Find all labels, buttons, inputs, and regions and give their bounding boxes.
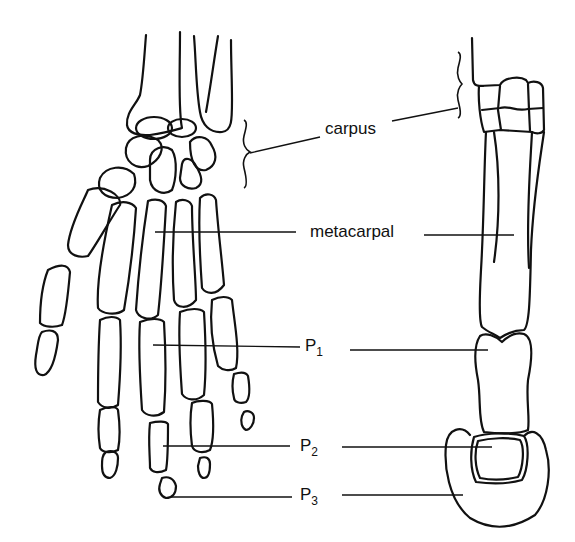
carpal-hamate <box>180 159 201 189</box>
metacarpal-little <box>199 194 224 293</box>
distal-phalanx-middle <box>159 477 176 498</box>
p1-leader-left <box>153 345 300 347</box>
proximal-phalanx-middle <box>139 319 165 416</box>
p3-label-main: P <box>300 485 311 504</box>
distal-phalanx-ring <box>198 457 210 478</box>
horse-carpus-brace <box>457 52 462 118</box>
p2-label: P2 <box>300 437 318 458</box>
diagram-drawing <box>0 0 575 542</box>
hand-carpus-brace <box>243 120 250 188</box>
p2-label-subscript: 2 <box>311 445 318 459</box>
horse-p3-hoof <box>446 429 549 526</box>
middle-phalanx-ring <box>191 401 214 452</box>
human-hand-skeleton <box>35 32 254 498</box>
p1-label-main: P <box>305 336 316 355</box>
metacarpal-ring <box>173 200 196 307</box>
carpal-trapezoid <box>99 168 135 198</box>
carpus-leader-right <box>392 108 458 121</box>
thumb-distal-phalanx <box>35 331 58 376</box>
metacarpal-label: metacarpal <box>310 223 394 240</box>
proximal-phalanx-index <box>98 317 121 408</box>
ulna-bone <box>194 36 232 132</box>
carpal-triquetrum <box>190 137 215 170</box>
carpal-trapezium <box>126 136 162 167</box>
proximal-phalanx-ring <box>179 309 205 399</box>
horse-carpal-divider-2 <box>528 84 530 131</box>
ulna-inner-line <box>206 36 218 112</box>
middle-phalanx-little <box>233 373 250 403</box>
horse-splint-left <box>494 132 499 262</box>
distal-phalanx-index <box>102 451 118 478</box>
horse-p2-inner <box>476 438 523 479</box>
p1-label-subscript: 1 <box>316 345 323 359</box>
p3-label: P3 <box>300 486 318 507</box>
p3-label-subscript: 3 <box>311 494 318 508</box>
middle-phalanx-middle <box>149 422 168 473</box>
proximal-phalanx-little <box>211 297 237 370</box>
p2-label-main: P <box>300 436 311 455</box>
bone-comparison-diagram: carpus metacarpal P1 P2 P3 <box>0 0 575 542</box>
distal-phalanx-little <box>241 411 254 430</box>
horse-carpal-row-divider <box>482 107 543 110</box>
carpus-label: carpus <box>325 120 376 137</box>
horse-carpal-block <box>479 78 544 134</box>
carpus-leader-left <box>250 137 320 153</box>
metacarpal-index <box>98 202 136 313</box>
horse-radius-line <box>472 38 483 86</box>
metacarpal-middle <box>136 200 166 319</box>
middle-phalanx-index <box>99 407 120 452</box>
thumb-proximal-phalanx <box>40 266 70 327</box>
horse-p1-bone <box>475 333 531 433</box>
p1-label: P1 <box>305 337 323 358</box>
carpal-capitate <box>150 147 176 193</box>
